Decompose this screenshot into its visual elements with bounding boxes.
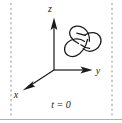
figure-canvas: z y x t = 0 <box>0 0 122 123</box>
x-axis-label: x <box>13 89 19 100</box>
time-label: t = 0 <box>51 99 71 110</box>
knot-time-slice-figure: z y x t = 0 <box>0 0 122 123</box>
y-axis-label: y <box>95 65 101 76</box>
z-axis-label: z <box>47 3 52 14</box>
